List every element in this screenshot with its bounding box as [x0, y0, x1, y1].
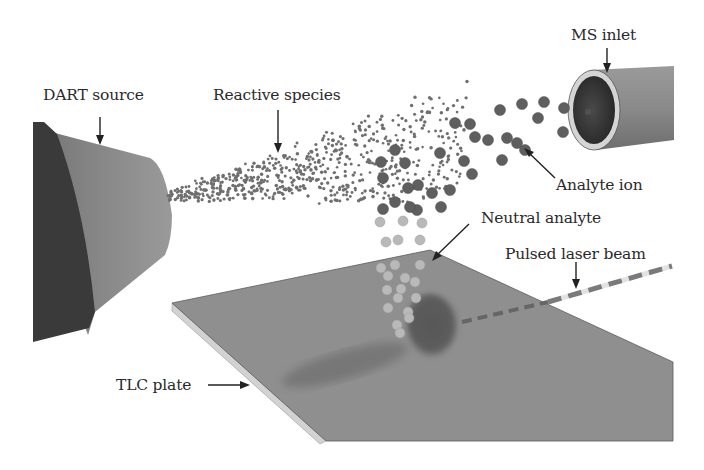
tlc-plate: [172, 250, 673, 444]
arrow-reactive-species: [274, 110, 282, 153]
label-reactive-species: Reactive species: [213, 88, 340, 104]
arrow-tlc-plate: [208, 381, 250, 389]
dart-source: [33, 122, 172, 342]
analyte-ions: [376, 97, 570, 216]
arrow-analyte-ion: [524, 148, 555, 178]
label-dart-source: DART source: [43, 88, 144, 104]
ms-inlet: [568, 66, 674, 150]
dart-tlc-diagram: DART source Reactive species MS inlet An…: [0, 0, 704, 470]
arrow-neutral-analyte: [432, 224, 469, 261]
label-neutral-analyte: Neutral analyte: [481, 211, 601, 227]
label-analyte-ion: Analyte ion: [556, 178, 643, 194]
label-tlc-plate: TLC plate: [116, 378, 191, 394]
arrow-dart-source: [96, 117, 104, 145]
label-pulsed-laser-beam: Pulsed laser beam: [505, 247, 646, 263]
arrow-pulsed-laser-beam: [572, 262, 580, 289]
ms-inlet-bore: [573, 76, 615, 144]
label-ms-inlet: MS inlet: [571, 28, 636, 44]
diagram-canvas: [0, 0, 704, 470]
